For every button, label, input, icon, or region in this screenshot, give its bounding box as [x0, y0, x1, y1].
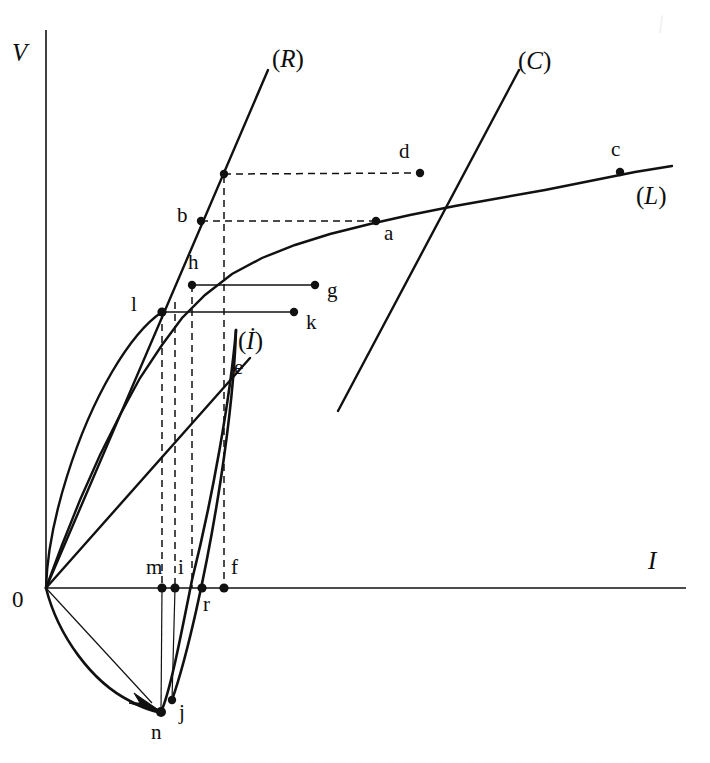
point-dot-a — [372, 217, 380, 225]
point-label-f: f — [231, 557, 238, 578]
point-label-g: g — [327, 280, 338, 301]
curve-R — [46, 70, 268, 588]
figure-canvas: V I 0 (R) (C) (L) (İ) a b c d e f g h i … — [0, 0, 710, 763]
dashed-construction-lines — [162, 173, 420, 588]
drop-line-i-j — [172, 588, 175, 700]
diagram-svg — [0, 0, 710, 763]
dash-h-top-to-d — [224, 173, 420, 174]
point-label-i: i — [178, 557, 184, 578]
point-dot-k — [290, 308, 298, 316]
point-label-h: h — [188, 252, 199, 273]
point-label-d: d — [399, 141, 410, 162]
point-dot-h — [188, 281, 196, 289]
curve-label-Idot: (İ) — [238, 328, 263, 353]
curve-label-L: (L) — [636, 183, 667, 208]
point-label-j: j — [179, 702, 185, 723]
point-label-e: e — [234, 357, 243, 378]
point-label-k: k — [306, 312, 317, 333]
line-origin-to-e — [46, 358, 250, 588]
point-label-m: m — [146, 557, 162, 578]
point-dot-j — [168, 696, 176, 704]
point-label-b: b — [177, 205, 188, 226]
point-dot-i — [170, 583, 179, 592]
curve-label-R: (R) — [272, 46, 304, 71]
curve-label-C: (C) — [518, 48, 551, 73]
point-label-r: r — [203, 594, 210, 615]
origin-label: 0 — [12, 588, 24, 611]
curve-L — [46, 166, 672, 588]
point-dot-n — [156, 707, 166, 717]
point-dot-b — [197, 217, 205, 225]
point-label-n: n — [151, 722, 162, 743]
flow-arrow — [46, 588, 163, 713]
point-dot-c — [616, 168, 624, 176]
point-dot-l — [157, 307, 166, 316]
curve-C — [338, 70, 519, 411]
point-label-a: a — [384, 223, 393, 244]
point-dot-g — [311, 281, 319, 289]
point-dot-f — [219, 583, 228, 592]
point-dot-m — [157, 583, 166, 592]
point-label-c: c — [611, 139, 620, 160]
i-axis-label: I — [648, 548, 656, 573]
point-dot-p_top — [220, 170, 228, 178]
point-label-l: l — [131, 294, 137, 315]
drop-line-m-n — [161, 588, 162, 712]
point-dot-d — [416, 169, 424, 177]
v-axis-label: V — [12, 40, 27, 65]
